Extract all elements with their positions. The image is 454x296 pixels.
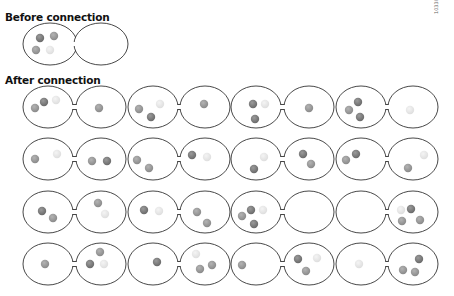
molecule-light-icon [100, 260, 108, 268]
molecule-mid-icon [342, 156, 350, 164]
left-bulb [23, 191, 73, 233]
tube-interior [71, 105, 79, 109]
bulb-pair [23, 243, 126, 285]
molecule-dark-icon [188, 151, 196, 159]
right-bulb [76, 138, 126, 180]
bulb-pair [231, 86, 334, 128]
molecule-light-icon [406, 106, 414, 114]
bulb-pair [336, 191, 438, 233]
molecule-mid-icon [203, 219, 211, 227]
bulb-pair [23, 23, 128, 65]
right-bulb [284, 243, 334, 285]
molecule-dark-icon [352, 150, 360, 158]
bulb-pair [128, 86, 230, 128]
molecule-mid-icon [307, 160, 315, 168]
molecule-dark-icon [250, 220, 258, 228]
tube-interior [279, 210, 287, 214]
tube-interior [383, 262, 391, 266]
tube-interior [279, 262, 287, 266]
molecule-mid-icon [200, 100, 208, 108]
molecule-light-icon [192, 250, 200, 258]
molecule-mid-icon [41, 260, 49, 268]
molecule-dark-icon [153, 258, 161, 266]
bulb-pair [128, 138, 230, 180]
molecule-mid-icon [411, 268, 419, 276]
bulb-diagram [0, 0, 454, 296]
molecule-mid-icon [88, 157, 96, 165]
molecule-light-icon [203, 153, 211, 161]
left-bulb [336, 191, 386, 233]
molecule-mid-icon [238, 212, 246, 220]
tube-interior [279, 157, 287, 161]
molecule-dark-icon [415, 255, 423, 263]
tube-interior [383, 157, 391, 161]
left-bulb [23, 86, 73, 128]
right-bulb [180, 191, 230, 233]
molecule-mid-icon [94, 199, 102, 207]
tube-interior [175, 157, 183, 161]
bulb-pair [23, 86, 126, 128]
molecule-dark-icon [140, 206, 148, 214]
molecule-mid-icon [398, 217, 406, 225]
right-bulb [388, 243, 438, 285]
molecule-mid-icon [135, 105, 143, 113]
molecule-mid-icon [345, 106, 353, 114]
tube-interior [383, 105, 391, 109]
molecule-mid-icon [196, 265, 204, 273]
molecule-mid-icon [238, 261, 246, 269]
bulb-pair [231, 243, 334, 285]
molecule-light-icon [261, 100, 269, 108]
molecule-light-icon [313, 254, 321, 262]
tube-interior [279, 105, 287, 109]
molecule-dark-icon [147, 113, 155, 121]
left-bulb [336, 86, 386, 128]
right-bulb [180, 243, 230, 285]
right-bulb [284, 191, 334, 233]
right-bulb [388, 138, 438, 180]
molecule-mid-icon [50, 32, 58, 40]
tube-interior [383, 210, 391, 214]
molecule-light-icon [156, 100, 164, 108]
molecule-dark-icon [354, 98, 362, 106]
right-bulb [74, 23, 128, 65]
molecule-mid-icon [416, 216, 424, 224]
tube-interior [175, 262, 183, 266]
molecule-mid-icon [49, 214, 57, 222]
molecule-mid-icon [404, 164, 412, 172]
molecule-mid-icon [305, 104, 313, 112]
bulb-pair [128, 243, 230, 285]
molecule-mid-icon [302, 267, 310, 275]
right-bulb [388, 86, 438, 128]
molecule-light-icon [52, 96, 60, 104]
molecule-dark-icon [407, 205, 415, 213]
tube-interior [71, 262, 79, 266]
molecule-dark-icon [86, 260, 94, 268]
molecule-mid-icon [32, 46, 40, 54]
molecule-mid-icon [399, 266, 407, 274]
molecule-mid-icon [31, 104, 39, 112]
bulb-pair [231, 191, 334, 233]
left-bulb [23, 23, 77, 65]
molecule-dark-icon [294, 255, 302, 263]
bulb-pair [336, 138, 438, 180]
bulb-pair [23, 138, 126, 180]
tube-interior [175, 210, 183, 214]
molecule-dark-icon [356, 113, 364, 121]
molecule-light-icon [53, 150, 61, 158]
molecule-mid-icon [96, 248, 104, 256]
bulb-pair [336, 243, 438, 285]
molecule-mid-icon [133, 156, 141, 164]
before-connection-diagram [23, 23, 128, 65]
right-bulb [76, 191, 126, 233]
bulb-pair [231, 138, 334, 180]
molecule-light-icon [260, 153, 268, 161]
molecule-mid-icon [193, 208, 201, 216]
molecule-mid-icon [31, 155, 39, 163]
molecule-mid-icon [95, 104, 103, 112]
molecule-dark-icon [251, 115, 259, 123]
molecule-mid-icon [145, 164, 153, 172]
molecule-light-icon [259, 206, 267, 214]
left-bulb [128, 243, 178, 285]
molecule-dark-icon [250, 165, 258, 173]
molecule-light-icon [46, 46, 54, 54]
